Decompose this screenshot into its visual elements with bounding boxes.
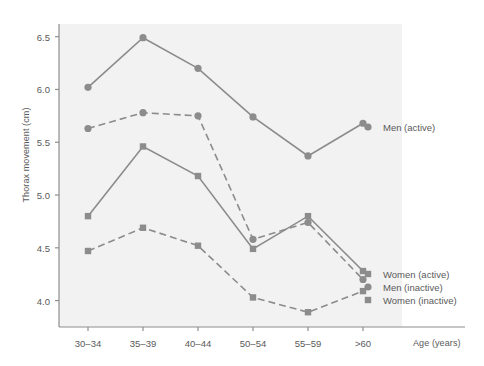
legend-marker [364,123,371,130]
plot-area [0,0,484,366]
y-tick-label: 5.0 [16,190,50,201]
data-point-marker [84,84,91,91]
legend-label: Women (inactive) [383,295,457,306]
data-point-marker [194,65,201,72]
data-point-marker [249,113,256,120]
data-point-marker [305,213,311,219]
x-tick-label: 35–39 [130,338,156,349]
data-point-marker [304,152,311,159]
legend-label: Women (active) [383,269,449,280]
legend-label: Men (active) [383,122,435,133]
data-point-marker [304,219,311,226]
y-tick-label: 6.5 [16,31,50,42]
legend-marker [365,271,371,277]
data-point-marker [85,248,91,254]
y-axis-title: Thorax movement (cm) [21,85,31,225]
data-point-marker [140,143,146,149]
x-tick-label: >60 [355,338,371,349]
y-tick-label: 4.0 [16,295,50,306]
legend-label: Men (inactive) [383,282,443,293]
data-point-marker [139,34,146,41]
data-point-marker [84,125,91,132]
data-point-marker [249,236,256,243]
data-point-marker [250,246,256,252]
y-tick-label: 6.0 [16,84,50,95]
data-point-marker [85,213,91,219]
data-point-marker [140,225,146,231]
x-tick-label: 55–59 [295,338,321,349]
y-tick-label: 5.5 [16,137,50,148]
x-tick-label: 40–44 [185,338,211,349]
legend-marker [364,283,371,290]
data-point-marker [195,243,201,249]
data-point-marker [305,309,311,315]
thorax-movement-line-chart: Thorax movement (cm) Age (years) 4.04.55… [0,0,484,366]
x-axis-title: Age (years) [413,338,461,348]
plot-background [59,24,402,327]
data-point-marker [139,109,146,116]
data-point-marker [250,294,256,300]
legend-marker [365,297,371,303]
data-point-marker [194,112,201,119]
y-tick-label: 4.5 [16,242,50,253]
x-tick-label: 50–54 [240,338,266,349]
data-point-marker [195,173,201,179]
x-tick-label: 30–34 [75,338,101,349]
